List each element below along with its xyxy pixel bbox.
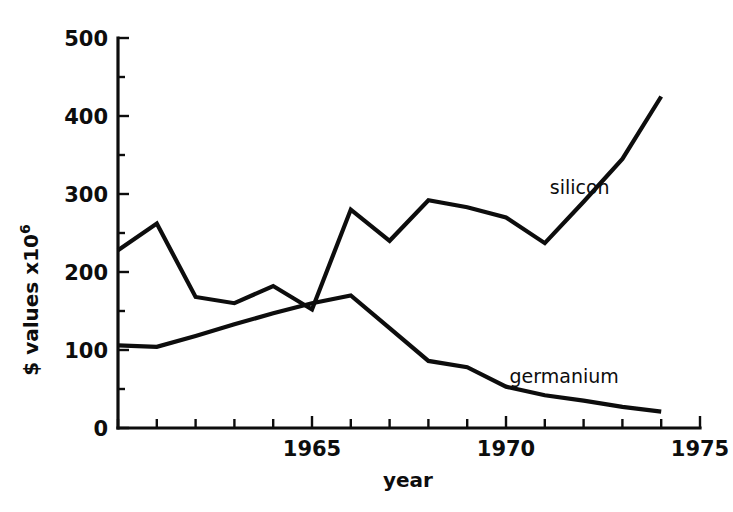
y-axis-tick-label: 200 xyxy=(64,261,108,285)
x-axis-tick-label: 1975 xyxy=(671,437,729,461)
y-axis-title: $ values x106 xyxy=(17,224,43,375)
series-line-silicon xyxy=(118,97,661,310)
series-inline-labels: silicongermanium xyxy=(510,176,619,387)
y-axis-tick-label: 0 xyxy=(93,417,108,441)
x-axis-tick-label: 1965 xyxy=(283,437,341,461)
svg-text:$ values x106: $ values x106 xyxy=(17,224,43,375)
series-label-silicon: silicon xyxy=(550,176,610,198)
x-axis-tick-label: 1970 xyxy=(477,437,535,461)
y-axis-ticks xyxy=(118,38,129,428)
x-axis-tick-labels: 196519701975 xyxy=(283,437,729,461)
chart-container: $ values x106 0100200300400500 196519701… xyxy=(0,0,733,512)
series-line-germanium xyxy=(118,295,661,411)
x-axis-ticks xyxy=(118,416,700,428)
series-label-germanium: germanium xyxy=(510,365,619,387)
y-axis-tick-label: 400 xyxy=(64,105,108,129)
x-axis-title: year xyxy=(383,468,433,492)
y-axis-title-text: $ values x10 xyxy=(19,234,43,376)
y-axis-tick-label: 300 xyxy=(64,183,108,207)
y-axis-title-exponent: 6 xyxy=(17,224,33,234)
line-chart: $ values x106 0100200300400500 196519701… xyxy=(0,0,733,512)
y-axis-tick-label: 100 xyxy=(64,339,108,363)
y-axis-tick-label: 500 xyxy=(64,27,108,51)
y-axis-tick-labels: 0100200300400500 xyxy=(64,27,108,441)
